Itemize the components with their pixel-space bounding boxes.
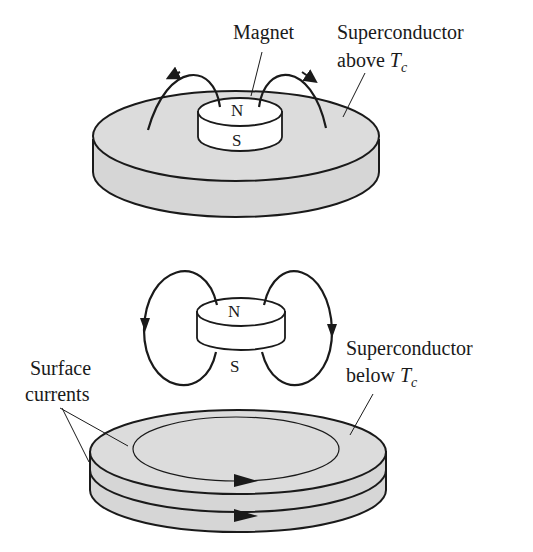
surface-currents-label-line1: Surface <box>30 357 91 379</box>
superconductor-below-label-line2: below Tc <box>346 364 417 389</box>
north-pole-label-top: N <box>231 100 243 122</box>
superconductor-below-label-line1: Superconductor <box>346 337 473 359</box>
magnet-bottom <box>197 298 285 350</box>
superconductor-above-label-line2: above Tc <box>337 49 407 74</box>
surface-currents-label-line2: currents <box>25 383 89 405</box>
south-pole-label-bottom: S <box>230 356 239 378</box>
magnet-leader <box>251 52 262 96</box>
south-pole-label-top: S <box>232 130 241 152</box>
superconductor-above-label-line1: Superconductor <box>337 21 464 43</box>
diagram-canvas <box>0 0 533 552</box>
magnet-label: Magnet <box>233 21 294 43</box>
north-pole-label-bottom: N <box>228 301 240 323</box>
